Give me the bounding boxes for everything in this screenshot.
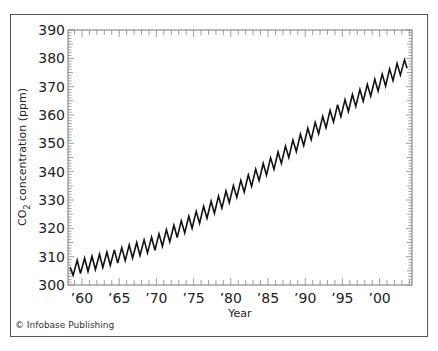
y-tick-label: 310 [38,249,65,265]
y-axis-tick-labels: 300310320330340350360370380390 [38,22,65,293]
axis-ticks [68,30,412,285]
co2-data-line [70,60,407,276]
y-tick-label: 350 [38,135,65,151]
x-axis-title: Year [227,307,252,320]
x-tick-label: ’65 [108,290,130,306]
x-tick-label: ’80 [220,290,242,306]
x-axis-tick-labels: ’60’65’70’75’80’85’90’95’00 [71,290,391,306]
x-tick-label: ’60 [71,290,93,306]
y-tick-label: 390 [38,22,65,38]
y-tick-label: 300 [38,277,65,293]
copyright-credit: © Infobase Publishing [15,320,114,330]
y-tick-label: 370 [38,79,65,95]
x-tick-label: ’85 [257,290,279,306]
y-tick-label: 340 [38,164,65,180]
plot-area [68,30,412,285]
y-axis-title-rest: concentration (ppm) [16,88,29,204]
y-tick-label: 320 [38,220,65,236]
y-tick-label: 380 [38,50,65,66]
x-tick-label: ’00 [368,290,390,306]
x-tick-label: ’75 [182,290,204,306]
x-tick-label: ’95 [331,290,353,306]
co2-line-chart: 300310320330340350360370380390 ’60’65’70… [0,0,438,351]
y-tick-label: 330 [38,192,65,208]
y-axis-title: CO2 concentration (ppm) [16,88,32,226]
y-axis-title-co: CO [16,209,29,226]
x-tick-label: ’90 [294,290,316,306]
x-tick-label: ’70 [145,290,167,306]
plot-border [68,30,412,285]
y-tick-label: 360 [38,107,65,123]
